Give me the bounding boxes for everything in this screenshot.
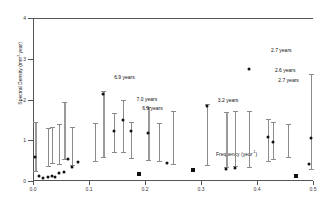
spectral-density-chart: 01234 0.00.10.20.30.40.5 Spectral Densit… bbox=[0, 0, 322, 201]
data-point bbox=[66, 157, 69, 160]
x-tick-label: 0.5 bbox=[301, 186, 322, 192]
data-point bbox=[113, 129, 116, 132]
data-point bbox=[33, 155, 36, 158]
error-bar-cap bbox=[146, 160, 151, 161]
data-point bbox=[42, 177, 45, 180]
period-annotation: 2.7 years bbox=[278, 77, 299, 83]
x-tick-label: 0.3 bbox=[189, 186, 213, 192]
error-bar-cap bbox=[33, 122, 38, 123]
error-bar-cap bbox=[309, 169, 314, 170]
data-point bbox=[247, 68, 250, 71]
x-tick-label: 0.1 bbox=[77, 186, 101, 192]
period-annotation: 6.9 years bbox=[142, 105, 163, 111]
y-tick-mark bbox=[28, 18, 33, 19]
error-bar-cap bbox=[309, 74, 314, 75]
error-bar bbox=[173, 111, 174, 164]
error-bar-cap bbox=[62, 102, 67, 103]
error-bar-cap bbox=[129, 122, 134, 123]
y-tick-mark bbox=[28, 140, 33, 141]
error-bar bbox=[103, 91, 105, 156]
error-bar bbox=[288, 124, 289, 157]
data-point bbox=[166, 162, 169, 165]
error-bar-cap bbox=[171, 111, 176, 112]
error-bar bbox=[52, 127, 53, 162]
error-bar-cap bbox=[205, 165, 210, 166]
error-bar-cap bbox=[286, 124, 291, 125]
error-bar-cap bbox=[33, 171, 38, 172]
data-point bbox=[71, 166, 74, 169]
data-point bbox=[46, 176, 49, 179]
data-point bbox=[63, 171, 66, 174]
error-bar bbox=[311, 74, 312, 169]
error-bar bbox=[268, 119, 269, 161]
data-point bbox=[205, 104, 208, 107]
error-bar-cap bbox=[50, 163, 55, 164]
data-point bbox=[267, 135, 270, 138]
data-point bbox=[310, 137, 313, 140]
data-point bbox=[225, 167, 228, 170]
x-tick-label: 0.0 bbox=[21, 186, 45, 192]
error-bar bbox=[249, 111, 250, 167]
data-point bbox=[191, 168, 195, 172]
x-tick-mark bbox=[33, 181, 34, 185]
error-bar bbox=[35, 122, 37, 171]
x-tick-mark bbox=[201, 181, 202, 185]
period-annotation: 2.7 years bbox=[271, 47, 292, 53]
error-bar bbox=[131, 122, 132, 159]
error-bar-cap bbox=[112, 152, 117, 153]
y-tick-label: 0 bbox=[12, 178, 26, 184]
error-bar-cap bbox=[57, 124, 62, 125]
data-point bbox=[271, 140, 274, 143]
error-bar-cap bbox=[112, 113, 117, 114]
data-point bbox=[121, 118, 124, 121]
y-axis-label-main: Spectral Density (mm bbox=[17, 57, 23, 105]
data-point bbox=[146, 131, 149, 134]
data-point bbox=[233, 167, 236, 170]
x-tick-mark bbox=[89, 181, 90, 185]
error-bar-cap bbox=[46, 166, 51, 167]
x-tick-mark bbox=[145, 181, 146, 185]
data-point bbox=[307, 162, 310, 165]
error-bar bbox=[48, 128, 49, 165]
y-axis-label-tail: year) bbox=[17, 42, 23, 55]
x-tick-mark bbox=[257, 181, 258, 185]
period-annotation: 7.0 years bbox=[137, 96, 158, 102]
error-bar bbox=[226, 112, 228, 167]
error-bar-cap bbox=[50, 127, 55, 128]
data-point bbox=[102, 93, 105, 96]
data-point bbox=[137, 172, 141, 176]
period-annotation: 6.9 years bbox=[114, 74, 135, 80]
error-bar-cap bbox=[157, 123, 162, 124]
data-point bbox=[54, 176, 57, 179]
error-bar-cap bbox=[57, 164, 62, 165]
x-axis-label-tail: ) bbox=[256, 151, 258, 157]
error-bar bbox=[72, 127, 73, 164]
y-tick-mark bbox=[28, 59, 33, 60]
error-bar-cap bbox=[171, 164, 176, 165]
error-bar-cap bbox=[93, 161, 98, 162]
x-tick-mark bbox=[313, 181, 314, 185]
error-bar-cap bbox=[224, 112, 229, 113]
data-point bbox=[38, 174, 41, 177]
y-tick-mark bbox=[28, 100, 33, 101]
error-bar bbox=[159, 123, 160, 160]
error-bar-cap bbox=[121, 100, 126, 101]
period-annotation: 3.2 years bbox=[218, 97, 239, 103]
error-bar bbox=[64, 102, 66, 158]
error-bar-cap bbox=[247, 167, 252, 168]
data-point bbox=[76, 161, 79, 164]
error-bar-cap bbox=[266, 161, 271, 162]
error-bar-cap bbox=[233, 111, 238, 112]
error-bar-cap bbox=[70, 127, 75, 128]
error-bar-cap bbox=[271, 159, 276, 160]
data-point bbox=[130, 130, 133, 133]
data-point bbox=[58, 171, 61, 174]
error-bar-cap bbox=[266, 119, 271, 120]
error-bar bbox=[95, 123, 96, 161]
error-bar bbox=[207, 104, 208, 164]
error-bar-cap bbox=[121, 152, 126, 153]
error-bar-cap bbox=[101, 157, 106, 158]
y-axis-label-exponent: 2 bbox=[17, 55, 21, 57]
error-bar-cap bbox=[129, 158, 134, 159]
error-bar bbox=[123, 100, 124, 153]
